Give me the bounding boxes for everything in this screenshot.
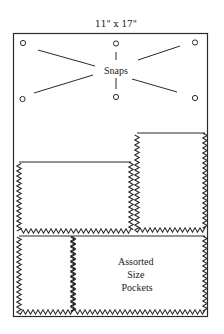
middle-left-pocket (17, 162, 133, 233)
snap-top-right (192, 40, 197, 45)
leader-line-bottom-left (34, 75, 93, 93)
pockets-label-line-2: Size (127, 269, 145, 280)
pockets-label-line-1: Assorted (118, 256, 154, 267)
bottom-left-pocket (17, 236, 75, 314)
snap-bottom-center (113, 94, 118, 99)
snap-top-center (113, 41, 118, 46)
snap-bottom-left (20, 96, 25, 101)
snap-top-left (20, 40, 25, 45)
diagram-canvas: 11" x 17" Snaps Assorted Size Pockets (0, 0, 224, 334)
pockets-label: Assorted Size Pockets (118, 256, 156, 293)
leader-line-bottom-right (132, 79, 177, 92)
leader-line-top-left (38, 50, 95, 66)
pockets-group (17, 133, 207, 314)
diagram-title: 11" x 17" (95, 19, 137, 29)
leader-line-top-right (138, 46, 180, 60)
pockets-label-line-3: Pockets (121, 282, 152, 293)
middle-right-pocket (135, 133, 207, 232)
snap-bottom-right (192, 95, 197, 100)
snaps-label: Snaps (104, 65, 128, 76)
